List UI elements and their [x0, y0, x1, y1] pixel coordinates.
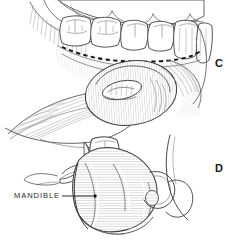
anatomy-illustration — [0, 0, 234, 245]
mandible-body — [68, 142, 164, 238]
panel-letter-d: D — [215, 163, 223, 174]
mandible-marker-dot — [93, 194, 96, 197]
panel-letter-c: C — [215, 58, 223, 69]
panel-d-group — [24, 135, 193, 238]
tooth-premolar-2 — [121, 20, 148, 50]
panel-c-group — [5, 0, 212, 151]
tooth-molar-1 — [91, 17, 121, 47]
tooth-premolar-1 — [148, 21, 174, 51]
mandible-label: MANDIBLE — [14, 192, 60, 200]
figure-root: C D MANDIBLE — [0, 0, 234, 245]
gland-nodule — [146, 191, 159, 206]
ramus-tendon — [24, 174, 60, 185]
tooth-molar-2 — [60, 16, 92, 46]
